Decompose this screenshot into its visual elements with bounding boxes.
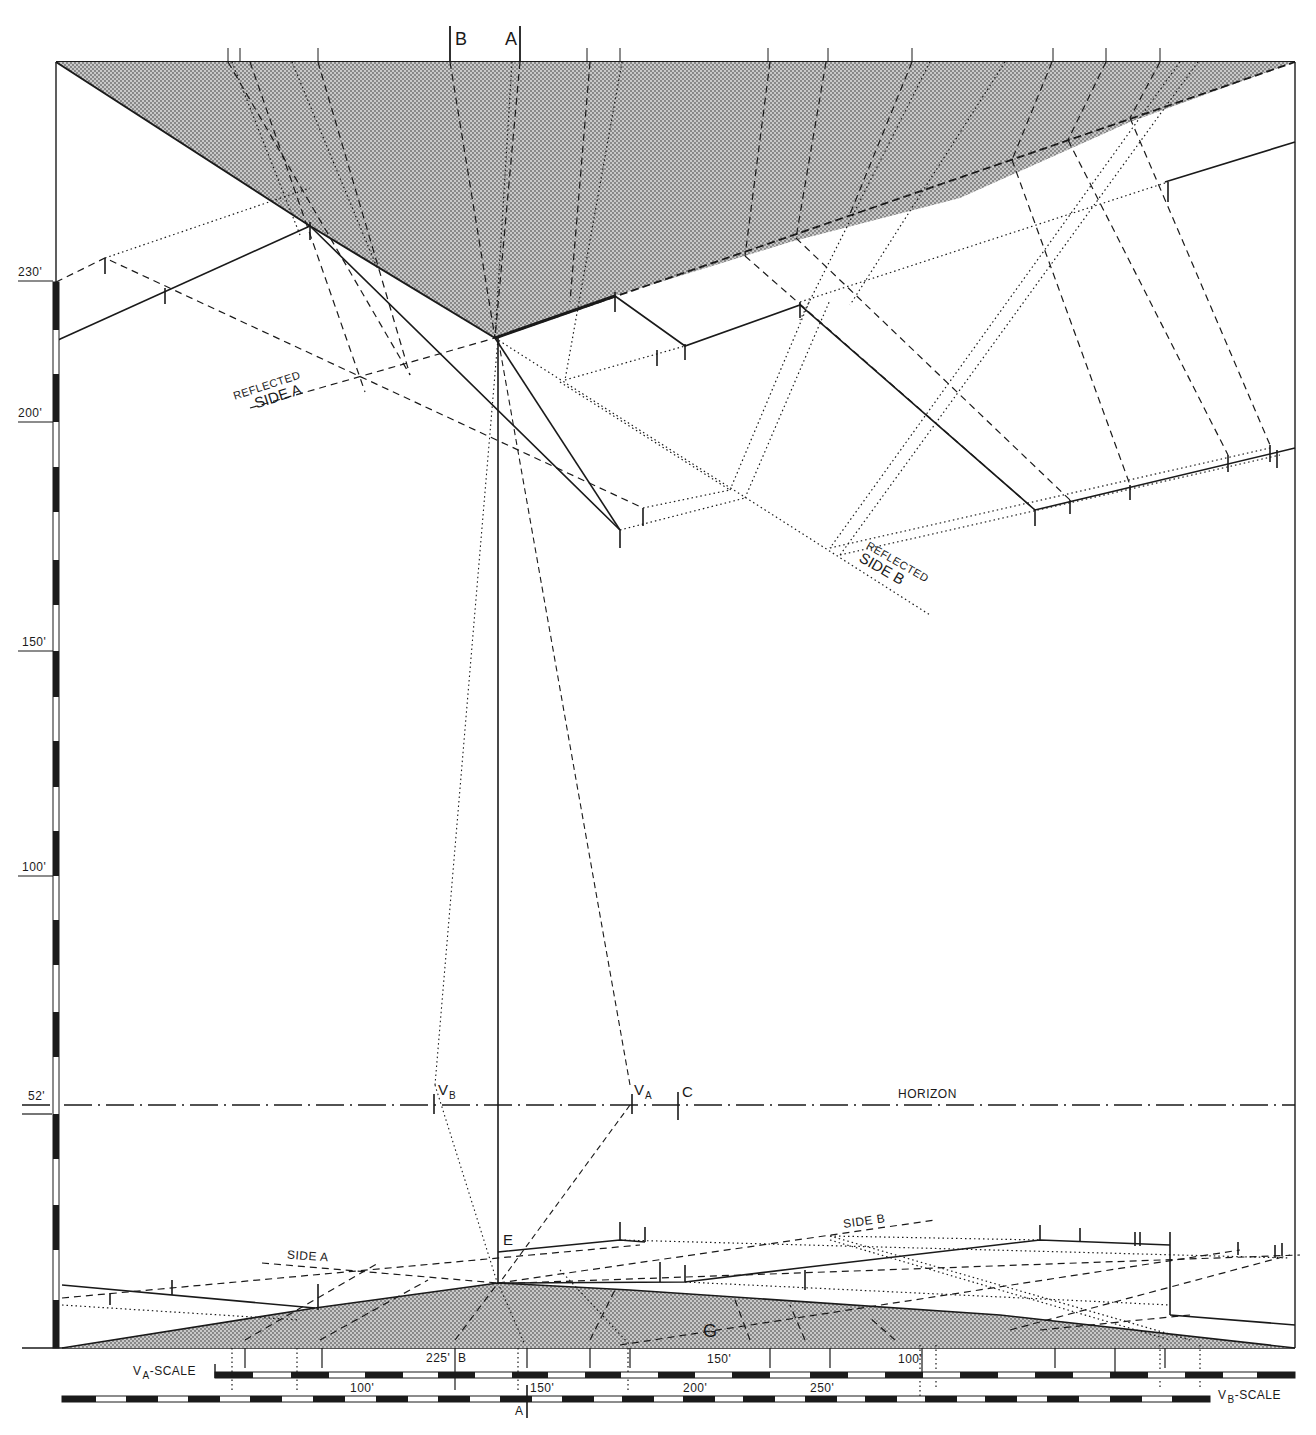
side-a-label: SIDE A <box>287 1249 329 1264</box>
top-markers <box>228 26 1160 62</box>
scale-tick-150: 150' <box>22 636 46 648</box>
marker-b-label: B <box>455 30 467 48</box>
vanishing-rays <box>435 338 630 1285</box>
reflection-shaded-region <box>56 62 1295 338</box>
scale-tick-200: 200' <box>18 407 42 419</box>
vb-scale-tick-100: 100' <box>350 1382 374 1394</box>
vanishing-point-b-label: VB <box>438 1082 456 1101</box>
va-scale-bar <box>215 1364 1295 1378</box>
va-scale-label: VA-SCALE <box>133 1365 196 1381</box>
vb-scale-tick-200: 200' <box>683 1382 707 1394</box>
vanishing-point-a-label: VA <box>634 1082 652 1101</box>
perspective-drawing <box>0 0 1316 1435</box>
center-point-c-label: C <box>682 1084 693 1099</box>
va-scale-marker-b: B <box>458 1352 467 1364</box>
vb-scale-tick-250: 250' <box>810 1382 834 1394</box>
scale-tick-100: 100' <box>22 861 46 873</box>
vb-scale-tick-150: 150' <box>530 1382 554 1394</box>
point-e-label: E <box>503 1232 513 1247</box>
vb-scale-marker-a: A <box>515 1405 524 1417</box>
vb-scale-bar <box>62 1385 1210 1418</box>
scale-tick-52: 52' <box>28 1090 45 1102</box>
va-scale-tick-150: 150' <box>707 1353 731 1365</box>
vb-scale-label: VB-SCALE <box>1218 1389 1281 1405</box>
va-scale-tick-225: 225' <box>426 1352 450 1364</box>
horizon-label: HORIZON <box>898 1088 957 1100</box>
left-height-scale <box>18 281 59 1348</box>
marker-a-label: A <box>505 30 517 48</box>
point-g-label: G <box>703 1322 717 1340</box>
scale-tick-230: 230' <box>18 266 42 278</box>
va-scale-tick-100: 100' <box>898 1353 922 1365</box>
